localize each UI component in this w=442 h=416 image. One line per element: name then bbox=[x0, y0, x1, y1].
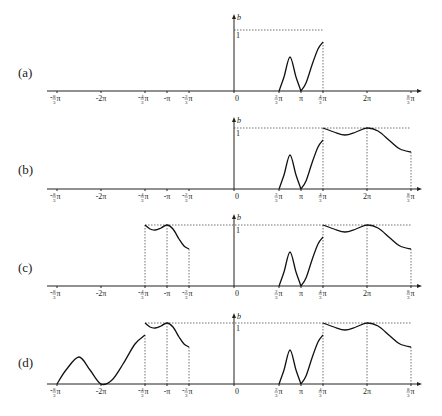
svg-text:π: π bbox=[323, 387, 327, 396]
y-axis-label: b bbox=[237, 13, 241, 22]
svg-text:π: π bbox=[279, 387, 283, 396]
x-tick-label: 2π bbox=[363, 192, 371, 201]
y-axis-arrow-icon bbox=[232, 14, 236, 19]
svg-text:π: π bbox=[323, 192, 327, 201]
x-tick-label: -83π bbox=[50, 288, 61, 300]
x-tick-label: -43π bbox=[138, 288, 149, 300]
svg-text:-π: -π bbox=[164, 192, 171, 201]
panel-label: (a) bbox=[18, 65, 32, 80]
x-tick-label: 23π bbox=[275, 289, 283, 300]
x-tick-label: π bbox=[299, 289, 303, 298]
svg-text:π: π bbox=[145, 94, 149, 103]
x-tick-label: π bbox=[299, 94, 303, 103]
y-axis-label: b bbox=[237, 312, 241, 321]
svg-text:π: π bbox=[299, 289, 303, 298]
svg-text:π: π bbox=[411, 289, 415, 298]
x-tick-label: -23π bbox=[182, 191, 193, 203]
svg-text:π: π bbox=[299, 94, 303, 103]
svg-text:-2π: -2π bbox=[96, 94, 107, 103]
svg-text:2π: 2π bbox=[363, 192, 371, 201]
x-tick-label: -43π bbox=[138, 386, 149, 398]
curve-bump bbox=[279, 252, 301, 286]
svg-text:π: π bbox=[323, 289, 327, 298]
x-axis-arrow-icon bbox=[417, 284, 422, 288]
svg-text:π: π bbox=[189, 387, 193, 396]
x-tick-label: -π bbox=[164, 387, 171, 396]
panel-label: (d) bbox=[18, 355, 33, 370]
svg-text:0: 0 bbox=[235, 289, 239, 298]
x-tick-label: π bbox=[299, 192, 303, 201]
svg-text:-π: -π bbox=[164, 94, 171, 103]
x-tick-label: 83π bbox=[407, 387, 415, 398]
panel-a: (a)b1-83π-2π-43π-π-23π023ππ43π2π83π bbox=[18, 13, 422, 105]
svg-text:0: 0 bbox=[235, 192, 239, 201]
x-tick-label: 23π bbox=[275, 94, 283, 105]
x-tick-label: -43π bbox=[138, 191, 149, 203]
y-axis-label: b bbox=[237, 213, 241, 222]
svg-text:π: π bbox=[145, 387, 149, 396]
unit-tick-label: 1 bbox=[236, 31, 240, 40]
panel-c: (c)b1-83π-2π-43π-π-23π023ππ43π2π83π bbox=[18, 213, 422, 300]
y-axis-arrow-icon bbox=[232, 214, 236, 219]
x-tick-label: -23π bbox=[182, 288, 193, 300]
y-axis-label: b bbox=[237, 116, 241, 125]
svg-text:π: π bbox=[411, 387, 415, 396]
svg-text:2π: 2π bbox=[363, 94, 371, 103]
curve-rise bbox=[301, 237, 323, 286]
x-tick-label: 0 bbox=[235, 192, 239, 201]
x-tick-label: -π bbox=[164, 192, 171, 201]
svg-text:π: π bbox=[145, 192, 149, 201]
x-tick-label: 2π bbox=[363, 289, 371, 298]
svg-text:π: π bbox=[57, 192, 61, 201]
periodic-extension-diagram: (a)b1-83π-2π-43π-π-23π023ππ43π2π83π(b)b1… bbox=[0, 0, 442, 416]
svg-text:-2π: -2π bbox=[96, 289, 107, 298]
svg-text:π: π bbox=[279, 192, 283, 201]
svg-text:π: π bbox=[323, 94, 327, 103]
curve-rise bbox=[301, 42, 323, 91]
curve-rise bbox=[301, 335, 323, 384]
unit-tick-label: 1 bbox=[236, 226, 240, 235]
svg-text:π: π bbox=[57, 289, 61, 298]
svg-text:-π: -π bbox=[164, 387, 171, 396]
svg-text:π: π bbox=[145, 289, 149, 298]
x-tick-label: 43π bbox=[319, 387, 327, 398]
x-tick-label: 0 bbox=[235, 289, 239, 298]
svg-text:π: π bbox=[189, 289, 193, 298]
curve-bump bbox=[279, 155, 301, 189]
x-tick-label: 43π bbox=[319, 289, 327, 300]
svg-text:2π: 2π bbox=[363, 289, 371, 298]
svg-text:π: π bbox=[57, 94, 61, 103]
x-axis-arrow-icon bbox=[417, 187, 422, 191]
svg-text:-π: -π bbox=[164, 289, 171, 298]
svg-text:0: 0 bbox=[235, 387, 239, 396]
panel-label: (c) bbox=[18, 260, 32, 275]
svg-text:π: π bbox=[189, 94, 193, 103]
x-tick-label: 2π bbox=[363, 94, 371, 103]
x-tick-label: 2π bbox=[363, 387, 371, 396]
curve-bump bbox=[279, 350, 301, 384]
svg-text:π: π bbox=[411, 192, 415, 201]
x-tick-label: 0 bbox=[235, 94, 239, 103]
x-tick-label: -43π bbox=[138, 93, 149, 105]
svg-text:π: π bbox=[299, 387, 303, 396]
x-axis-arrow-icon bbox=[417, 89, 422, 93]
x-tick-label: 43π bbox=[319, 94, 327, 105]
x-tick-label: -2π bbox=[96, 289, 107, 298]
x-tick-label: -23π bbox=[182, 93, 193, 105]
panel-d: (d)b1-83π-2π-43π-π-23π023ππ43π2π83π bbox=[18, 312, 422, 398]
curve-bump bbox=[279, 57, 301, 91]
x-tick-label: 83π bbox=[407, 192, 415, 203]
curve-rise bbox=[301, 140, 323, 189]
svg-text:-2π: -2π bbox=[96, 387, 107, 396]
svg-text:π: π bbox=[279, 289, 283, 298]
svg-text:π: π bbox=[57, 387, 61, 396]
x-tick-label: 83π bbox=[407, 94, 415, 105]
x-tick-label: -83π bbox=[50, 93, 61, 105]
unit-tick-label: 1 bbox=[236, 129, 240, 138]
svg-text:π: π bbox=[299, 192, 303, 201]
x-tick-label: -83π bbox=[50, 191, 61, 203]
curve-far-left bbox=[57, 335, 145, 385]
unit-tick-label: 1 bbox=[236, 324, 240, 333]
x-tick-label: 83π bbox=[407, 289, 415, 300]
diagram-figure: (a)b1-83π-2π-43π-π-23π023ππ43π2π83π(b)b1… bbox=[0, 0, 442, 416]
